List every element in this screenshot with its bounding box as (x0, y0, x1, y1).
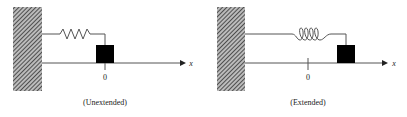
spring-coil (245, 28, 346, 45)
caption-extended: (Extended) (290, 98, 326, 107)
panel-unextended: 0 x (Unextended) (13, 7, 193, 107)
axis-arrow-icon (382, 60, 388, 66)
wall-left (13, 7, 42, 91)
mass-block (337, 45, 355, 63)
origin-label: 0 (306, 73, 310, 82)
spring-mass-diagram: 0 x (Unextended) 0 x (Extended) (0, 0, 407, 117)
mass-block (96, 45, 114, 63)
origin-label: 0 (103, 73, 107, 82)
caption-unextended: (Unextended) (83, 98, 127, 107)
spring-zigzag (42, 29, 105, 45)
axis-label: x (188, 59, 193, 68)
axis-label: x (391, 59, 396, 68)
wall-right (217, 7, 245, 91)
panel-extended: 0 x (Extended) (217, 7, 396, 107)
axis-arrow-icon (180, 60, 186, 66)
